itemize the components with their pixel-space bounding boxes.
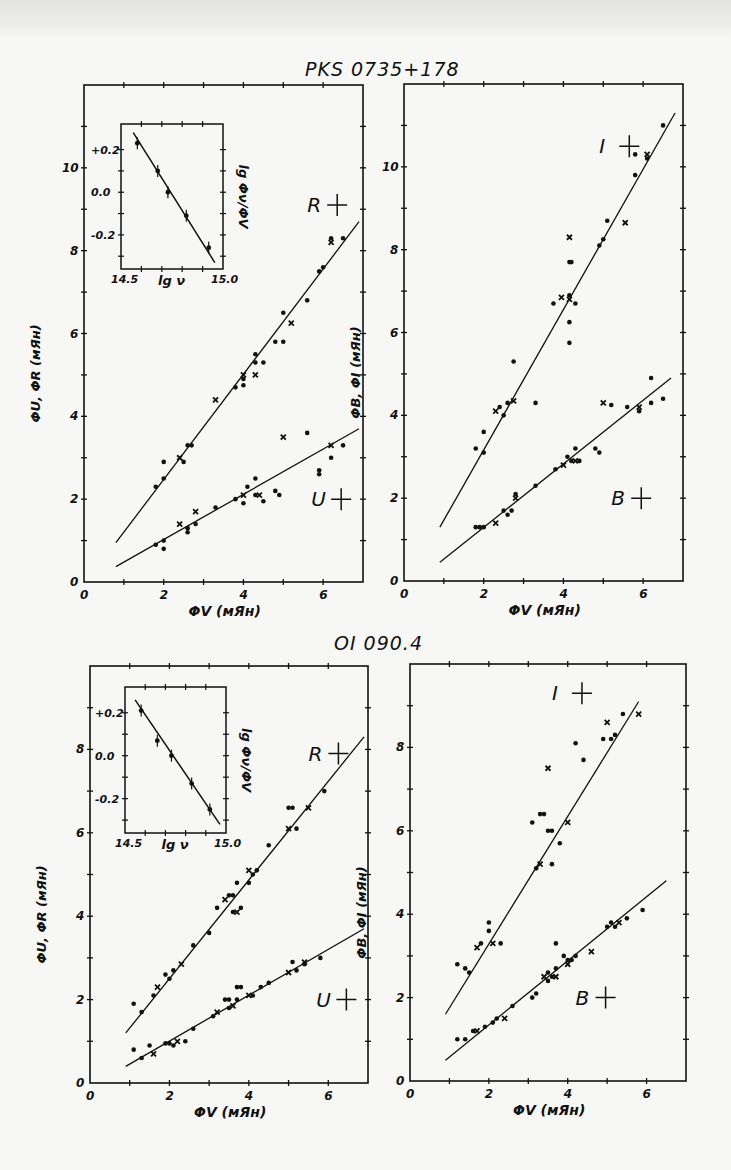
data-point bbox=[317, 468, 322, 473]
data-point bbox=[163, 972, 168, 977]
data-point bbox=[161, 476, 166, 481]
data-point bbox=[477, 525, 482, 530]
cross-marker-icon bbox=[327, 194, 347, 216]
data-point bbox=[207, 931, 212, 936]
series-label-B: B bbox=[576, 986, 590, 1010]
y-tick-label: 6 bbox=[76, 826, 84, 840]
data-point bbox=[542, 812, 547, 817]
data-point bbox=[501, 508, 506, 513]
data-point bbox=[633, 152, 638, 157]
chart-pks-right: 02460246810ΦV (мЯн)ΦB, ΦI (мЯн)IB bbox=[348, 81, 686, 618]
data-point bbox=[561, 954, 566, 959]
x-tick-label: 4 bbox=[244, 1089, 253, 1103]
inset-y-tick-label: -0.2 bbox=[91, 229, 115, 242]
data-point bbox=[235, 985, 240, 990]
data-point-cross bbox=[565, 962, 570, 967]
data-point bbox=[286, 805, 291, 810]
data-point bbox=[241, 383, 246, 388]
data-point bbox=[573, 741, 578, 746]
data-point bbox=[261, 360, 266, 365]
series-label-I: I bbox=[552, 681, 558, 705]
y-tick-label: 10 bbox=[62, 161, 79, 175]
data-point bbox=[233, 385, 238, 390]
data-point bbox=[294, 826, 299, 831]
data-point-cross bbox=[645, 152, 650, 157]
data-point bbox=[661, 396, 666, 401]
data-point bbox=[167, 1041, 172, 1046]
data-point bbox=[455, 1037, 460, 1042]
cross-marker-icon bbox=[631, 487, 651, 509]
y-tick-label: 10 bbox=[382, 160, 399, 174]
data-point bbox=[569, 958, 574, 963]
data-point bbox=[167, 976, 172, 981]
data-point bbox=[281, 310, 286, 315]
x-tick-label: 4 bbox=[238, 588, 247, 602]
data-point bbox=[239, 906, 244, 911]
x-tick-label: 2 bbox=[480, 587, 488, 601]
data-point bbox=[533, 483, 538, 488]
inset-x-tick-label: 14.5 bbox=[111, 273, 138, 286]
y-tick-label: 4 bbox=[389, 408, 398, 422]
data-point-cross bbox=[559, 295, 564, 300]
inset-y-tick-label: -0.2 bbox=[95, 793, 119, 806]
data-point bbox=[171, 968, 176, 973]
data-point-cross bbox=[502, 1016, 507, 1021]
data-point-cross bbox=[565, 820, 570, 825]
data-point bbox=[530, 995, 535, 1000]
data-point bbox=[153, 484, 158, 489]
series-label-I: I bbox=[599, 134, 605, 158]
data-point bbox=[491, 1020, 496, 1025]
data-point bbox=[305, 431, 310, 436]
data-point-cross bbox=[490, 941, 495, 946]
data-point-cross bbox=[616, 920, 621, 925]
data-point bbox=[621, 712, 626, 717]
inset-x-tick-label: 14.5 bbox=[115, 837, 142, 850]
data-point bbox=[266, 843, 271, 848]
fit-line-I bbox=[440, 113, 675, 527]
data-point bbox=[318, 956, 323, 961]
data-point bbox=[213, 505, 218, 510]
data-point bbox=[321, 265, 326, 270]
y-tick-label: 6 bbox=[70, 327, 78, 341]
inset-x-tick-label: 15.0 bbox=[214, 837, 241, 850]
data-point bbox=[510, 1004, 515, 1009]
data-point bbox=[147, 1043, 152, 1048]
data-point-cross bbox=[636, 712, 641, 717]
data-point bbox=[609, 403, 614, 408]
y-tick-label: 2 bbox=[76, 993, 84, 1007]
data-point bbox=[649, 401, 654, 406]
inset-spectrum: +0.20.0-0.214.515.0lg νlg Φν/ΦV bbox=[95, 684, 254, 852]
data-point bbox=[483, 1024, 488, 1029]
data-point bbox=[467, 970, 472, 975]
data-point bbox=[254, 868, 259, 873]
data-point bbox=[290, 960, 295, 965]
data-point bbox=[463, 966, 468, 971]
data-point bbox=[501, 413, 506, 418]
x-axis-label: ΦV (мЯн) bbox=[513, 1102, 585, 1118]
y-tick-label: 0 bbox=[70, 575, 78, 589]
data-point-cross bbox=[546, 766, 551, 771]
data-point bbox=[538, 812, 543, 817]
data-point bbox=[317, 269, 322, 274]
data-point bbox=[233, 497, 238, 502]
data-point-cross bbox=[253, 372, 258, 377]
data-point bbox=[341, 236, 346, 241]
data-point bbox=[640, 908, 645, 913]
data-point bbox=[329, 236, 334, 241]
data-point-cross bbox=[151, 1051, 156, 1056]
data-point bbox=[609, 737, 614, 742]
x-tick-label: 6 bbox=[319, 588, 327, 602]
data-point bbox=[161, 538, 166, 543]
data-point bbox=[567, 341, 572, 346]
data-point-cross bbox=[493, 409, 498, 414]
x-tick-label: 6 bbox=[324, 1089, 332, 1103]
y-tick-label: 8 bbox=[76, 742, 84, 756]
data-point bbox=[553, 467, 558, 472]
y-tick-label: 6 bbox=[396, 824, 404, 838]
inset-x-tick-label: 15.0 bbox=[211, 273, 238, 286]
data-point bbox=[649, 376, 654, 381]
data-point bbox=[294, 968, 299, 973]
data-point bbox=[161, 460, 166, 465]
data-point bbox=[534, 991, 539, 996]
data-point bbox=[455, 962, 460, 967]
